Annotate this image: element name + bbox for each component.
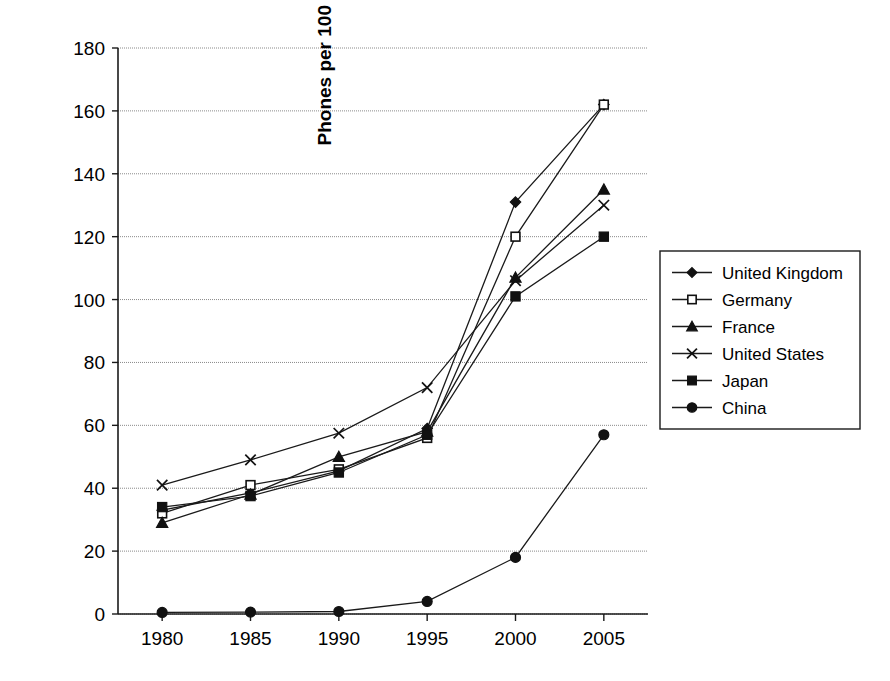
chart-container: 020406080100120140160180 198019851990199…: [0, 0, 890, 681]
marker-open-square: [688, 295, 696, 303]
marker-open-square: [599, 100, 608, 109]
y-tick-label: 120: [73, 227, 105, 248]
y-axis-title: Phones per 100 people: [314, 0, 335, 145]
legend-label: Germany: [722, 291, 792, 310]
legend-label: United States: [722, 345, 824, 364]
marker-filled-square: [688, 376, 697, 385]
marker-filled-circle: [246, 607, 256, 617]
marker-filled-circle: [511, 552, 521, 562]
y-tick-label: 40: [84, 478, 105, 499]
y-tick-label: 160: [73, 101, 105, 122]
x-tick-label: 2005: [583, 628, 625, 649]
marker-open-square: [511, 232, 520, 241]
y-tick-label: 20: [84, 541, 105, 562]
legend-label: France: [722, 318, 775, 337]
marker-filled-square: [334, 468, 343, 477]
chart-legend: United KingdomGermanyFranceUnited States…: [660, 251, 860, 429]
x-tick-label: 1980: [141, 628, 183, 649]
marker-filled-square: [599, 232, 608, 241]
marker-filled-circle: [422, 596, 432, 606]
marker-filled-circle: [157, 607, 167, 617]
legend-label: United Kingdom: [722, 264, 843, 283]
marker-filled-square: [511, 292, 520, 301]
x-tick-label: 1995: [406, 628, 448, 649]
line-chart: 020406080100120140160180 198019851990199…: [0, 0, 890, 681]
y-tick-label: 100: [73, 290, 105, 311]
marker-filled-square: [423, 430, 432, 439]
y-tick-label: 80: [84, 352, 105, 373]
marker-filled-circle: [687, 403, 697, 413]
y-tick-label: 140: [73, 164, 105, 185]
marker-filled-circle: [599, 430, 609, 440]
x-tick-label: 2000: [494, 628, 536, 649]
y-tick-label: 60: [84, 415, 105, 436]
marker-filled-circle: [334, 606, 344, 616]
x-tick-label: 1985: [229, 628, 271, 649]
y-tick-label: 0: [94, 604, 105, 625]
legend-label: Japan: [722, 372, 768, 391]
marker-filled-square: [158, 502, 167, 511]
legend-label: China: [722, 399, 767, 418]
x-tick-label: 1990: [318, 628, 360, 649]
y-tick-label: 180: [73, 38, 105, 59]
marker-filled-square: [246, 491, 255, 500]
